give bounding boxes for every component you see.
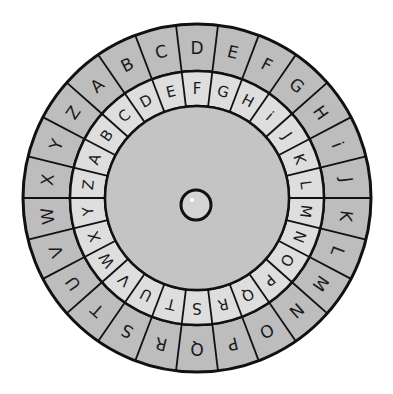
- outer-ring-letter: W: [37, 206, 59, 225]
- outer-ring-letter: Q: [190, 339, 203, 359]
- cipher-wheel: ABCDEFGHiJKLMNOPQRSTUVWXYZ ABCDEFGHiJKLM…: [0, 0, 393, 394]
- inner-ring-letter: M: [296, 204, 315, 219]
- inner-ring-letter: F: [193, 80, 202, 98]
- center-pin-icon[interactable]: [181, 190, 211, 220]
- outer-ring-letter: D: [190, 38, 203, 58]
- inner-ring-letter: S: [192, 299, 202, 317]
- inner-ring-letter: Z: [79, 179, 98, 191]
